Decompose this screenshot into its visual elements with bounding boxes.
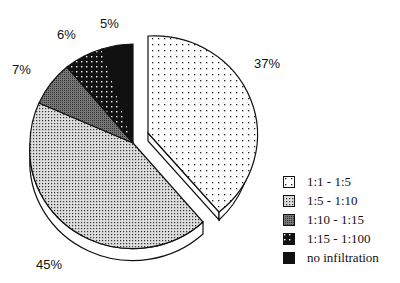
legend-label: no infiltration	[307, 250, 379, 266]
legend-label: 1:5 - 1:10	[307, 193, 358, 209]
legend-item-no-infiltration: no infiltration	[283, 248, 379, 267]
legend-swatch-sparse-dots-icon	[283, 176, 295, 188]
legend-label: 1:15 - 1:100	[307, 231, 371, 247]
legend-item-1-5-1-10: 1:5 - 1:10	[283, 191, 379, 210]
legend-item-1-10-1-15: 1:10 - 1:15	[283, 210, 379, 229]
label-45-percent: 45%	[36, 257, 62, 272]
legend: 1:1 - 1:5 1:5 - 1:10 1:10 - 1:15 1:15 - …	[283, 172, 379, 267]
legend-label: 1:1 - 1:5	[307, 174, 351, 190]
legend-swatch-solid-black-icon	[283, 252, 295, 264]
label-6-percent: 6%	[57, 27, 76, 42]
label-7-percent: 7%	[12, 62, 31, 77]
legend-item-1-15-1-100: 1:15 - 1:100	[283, 229, 379, 248]
label-5-percent: 5%	[100, 16, 119, 31]
legend-item-1-1-1-5: 1:1 - 1:5	[283, 172, 379, 191]
legend-label: 1:10 - 1:15	[307, 212, 364, 228]
legend-swatch-dense-dots-icon	[283, 195, 295, 207]
label-37-percent: 37%	[254, 56, 280, 71]
legend-swatch-black-dots-icon	[283, 233, 295, 245]
legend-swatch-dark-dots-icon	[283, 214, 295, 226]
